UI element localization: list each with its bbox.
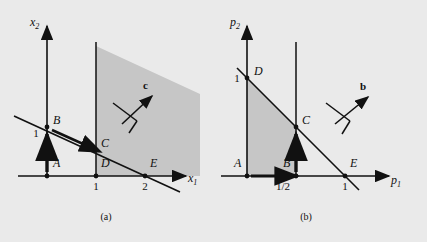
vector-c-label: c [143, 79, 148, 91]
point-label-b: B [53, 113, 61, 127]
feasible-region-a [96, 46, 200, 176]
y-axis-label-b: p2 [229, 15, 240, 31]
figure-root: c A B C D E 1 1 2 x2 x1 (a) [0, 0, 427, 242]
point-label-d: D [253, 64, 263, 78]
point-a-dot [245, 174, 250, 179]
x-tick-label-1-a: 1 [93, 180, 99, 192]
point-label-e: E [149, 156, 158, 170]
x-tick-label-half-b: 1/2 [276, 180, 290, 192]
point-d-dot [245, 76, 250, 81]
point-c-dot [94, 148, 99, 153]
panel-b-dual: b A B C D E 1 1/2 1 p2 p1 ( [213, 0, 426, 242]
y-axis-label-a: x2 [29, 15, 39, 31]
caption-a: (a) [100, 211, 111, 223]
x-tick-label-2-a: 2 [142, 180, 148, 192]
point-label-b: B [283, 156, 291, 170]
point-a-dot [45, 174, 50, 179]
x-tick-label-1-b: 1 [342, 180, 348, 192]
y-tick-label-1-a: 1 [33, 127, 39, 139]
point-label-c: C [302, 113, 311, 127]
point-b-dot [294, 174, 299, 179]
point-label-d: D [100, 156, 110, 170]
point-label-e: E [349, 156, 358, 170]
point-e-dot [343, 174, 348, 179]
point-label-c: C [101, 136, 110, 150]
point-label-a: A [233, 156, 242, 170]
vector-b [326, 97, 368, 134]
point-c-dot [294, 125, 299, 130]
x-axis-label-b: p1 [390, 173, 401, 189]
vector-b-label: b [360, 80, 366, 92]
path-arrow-b-to-c [52, 130, 92, 148]
point-e-dot [143, 174, 148, 179]
point-b-dot [45, 125, 50, 130]
panel-a-primal: c A B C D E 1 1 2 x2 x1 (a) [0, 0, 213, 242]
point-d-dot [94, 174, 99, 179]
point-label-a: A [52, 156, 61, 170]
caption-b: (b) [300, 211, 312, 223]
y-tick-label-1-b: 1 [234, 72, 240, 84]
